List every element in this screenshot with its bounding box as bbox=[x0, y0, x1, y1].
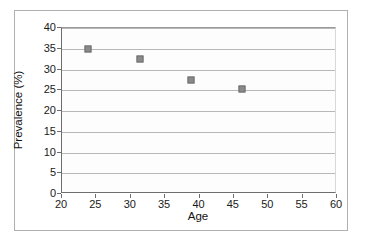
x-tick-label-25: 25 bbox=[89, 199, 101, 210]
x-tick-label-20: 20 bbox=[55, 199, 67, 210]
x-tick-label-45: 45 bbox=[227, 199, 239, 210]
scatter-chart-figure: 0510152025303540 202530354045505560 Prev… bbox=[0, 0, 365, 243]
x-axis-title: Age bbox=[188, 210, 208, 222]
x-tick-label-40: 40 bbox=[192, 199, 204, 210]
x-tick-label-50: 50 bbox=[261, 199, 273, 210]
x-tick-label-30: 30 bbox=[124, 199, 136, 210]
y-axis-title: Prevalence (%) bbox=[12, 71, 24, 150]
x-tick-label-35: 35 bbox=[158, 199, 170, 210]
x-tick-label-60: 60 bbox=[330, 199, 342, 210]
x-axis-tick-labels: 202530354045505560 bbox=[0, 0, 365, 243]
x-tick-label-55: 55 bbox=[296, 199, 308, 210]
